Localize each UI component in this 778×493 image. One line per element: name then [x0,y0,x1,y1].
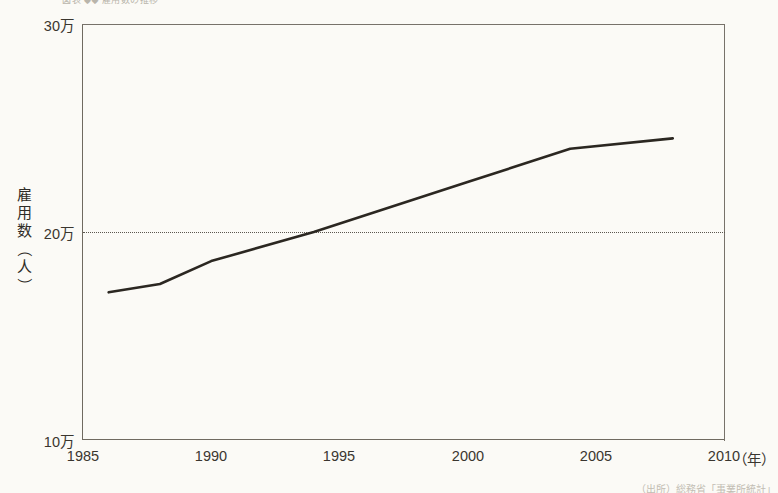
x-axis-tick-2005: 2005 [580,448,612,464]
y-axis-title-char-6: ） [15,275,33,295]
figure-source-note: （出所）総務省「事業所統計」 [596,484,776,493]
chart-figure: 図表 ◆◆ 雇用数の推移 30万 20万 10万 雇 用 数 （ 人 ） 198… [0,0,778,493]
plot-frame-top [82,24,725,25]
x-axis-tick-2000: 2000 [452,448,484,464]
x-axis-tick-1990: 1990 [195,448,227,464]
y-axis-title-char-5: 人 [14,258,34,276]
y-axis-title-char-1: 雇 [14,186,34,204]
x-axis-tick-1995: 1995 [323,448,355,464]
y-axis-title-char-2: 用 [14,204,34,222]
reference-line-200k [83,232,725,233]
figure-top-caption: 図表 ◆◆ 雇用数の推移 [62,0,362,4]
y-tick-label: 30万 [44,14,74,35]
y-tick-label: 20万 [44,222,74,243]
y-axis-title: 雇 用 数 （ 人 ） [14,186,34,294]
x-axis-unit-label: （年） [733,448,775,469]
y-axis-title-char-4: （ [15,239,33,259]
x-axis-tick-1985: 1985 [67,448,99,464]
y-axis-title-char-3: 数 [14,222,34,240]
